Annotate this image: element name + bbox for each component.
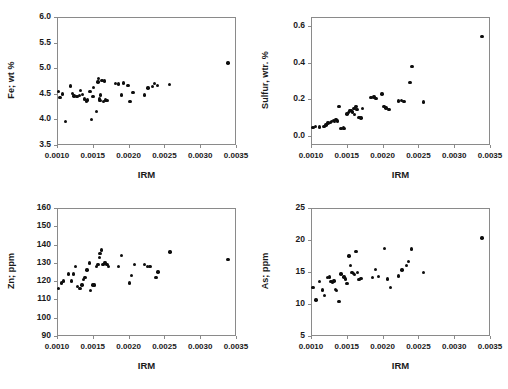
data-point <box>318 280 321 283</box>
data-point <box>349 264 352 267</box>
data-point <box>410 247 413 250</box>
data-point <box>335 289 338 292</box>
data-point <box>347 254 350 257</box>
data-point <box>371 276 374 279</box>
data-point <box>383 247 386 250</box>
data-point <box>344 277 347 280</box>
data-point <box>386 277 389 280</box>
data-point <box>337 300 340 303</box>
data-point <box>314 298 317 301</box>
data-point <box>311 286 314 289</box>
data-point <box>359 277 362 280</box>
data-point-layer <box>0 0 508 389</box>
data-point <box>397 274 400 277</box>
data-point <box>407 260 410 263</box>
scatter-plot-figure: 3.54.04.55.05.56.00.00100.00150.00200.00… <box>0 0 508 389</box>
data-point <box>374 268 377 271</box>
data-point <box>422 271 425 274</box>
data-point <box>480 236 483 239</box>
data-point <box>356 271 359 274</box>
data-point <box>328 275 331 278</box>
data-point <box>323 294 326 297</box>
data-point <box>405 264 408 267</box>
data-point <box>377 275 380 278</box>
chart-panel-4: 5101520250.00100.00150.00200.00250.00300… <box>0 0 508 389</box>
data-point <box>400 268 403 271</box>
data-point <box>345 282 348 285</box>
data-point <box>332 279 335 282</box>
data-point <box>354 250 357 253</box>
data-point <box>321 288 324 291</box>
data-point <box>389 286 392 289</box>
